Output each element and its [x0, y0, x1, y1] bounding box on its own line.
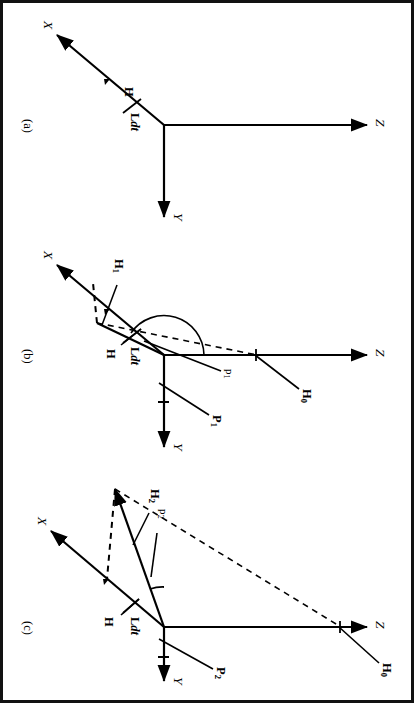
label-p2-angle: p2 — [157, 509, 169, 519]
dashed-h1-base — [93, 283, 97, 323]
label-p1-angle: p1 — [223, 369, 235, 379]
axis-x-tick — [104, 79, 110, 85]
axis-label-y: Y — [172, 677, 186, 685]
panel-c: Y Z X H0 p2 P2 H2 H Ldt (c) — [7, 467, 407, 697]
panel-b-drawing — [7, 237, 407, 467]
label-h0: H0 — [380, 663, 393, 677]
label-h1: H1 — [112, 259, 125, 273]
axis-label-x: X — [42, 251, 56, 259]
dashed-h2-base — [107, 489, 115, 579]
tick-h — [123, 99, 141, 113]
axis-x-line — [57, 35, 164, 125]
axis-label-z: Z — [374, 119, 388, 127]
dashed-h1-to-z — [97, 323, 257, 355]
panel-caption-b: (b) — [20, 349, 35, 364]
axis-x-tick — [103, 579, 109, 585]
panel-a-drawing — [7, 7, 407, 237]
panel-caption-c: (c) — [20, 621, 35, 635]
label-p1: P1 — [210, 415, 223, 427]
leader-h0 — [339, 627, 379, 663]
figure-plate: Y Z X H Ldt (a) — [7, 7, 407, 697]
panel-caption-a: (a) — [20, 119, 35, 133]
label-h: H — [103, 617, 116, 627]
figure-border: Y Z X H Ldt (a) — [0, 0, 414, 703]
axis-label-y: Y — [172, 213, 186, 221]
axis-label-y: Y — [172, 443, 186, 451]
angle-arc-p2 — [150, 586, 164, 588]
label-p2: P2 — [214, 667, 227, 679]
panel-c-drawing — [7, 467, 407, 697]
leader-p2-bold — [159, 639, 213, 669]
label-l-dt: Ldt — [129, 347, 142, 365]
label-h2: H2 — [148, 489, 161, 503]
axis-x-line — [57, 265, 164, 355]
label-h: H — [105, 349, 118, 359]
axis-label-x: X — [36, 517, 50, 525]
label-h0: H0 — [300, 389, 313, 403]
panel-b: Y Z X H0 p1 P1 H1 H Ldt (b) — [7, 237, 407, 467]
label-l-dt: Ldt — [129, 617, 142, 635]
leader-ldt — [121, 599, 139, 615]
axis-label-z: Z — [374, 621, 388, 629]
label-l-dt: Ldt — [129, 113, 142, 131]
axis-label-x: X — [42, 21, 56, 29]
panel-a: Y Z X H Ldt (a) — [7, 7, 407, 237]
leader-h0 — [255, 355, 299, 389]
label-h: H — [123, 87, 136, 97]
leader-p1-bold — [159, 383, 209, 415]
axis-label-z: Z — [374, 349, 388, 357]
leader-p2-angle — [151, 533, 157, 577]
dashed-h2-to-z — [115, 489, 341, 627]
leader-h2 — [133, 513, 149, 545]
